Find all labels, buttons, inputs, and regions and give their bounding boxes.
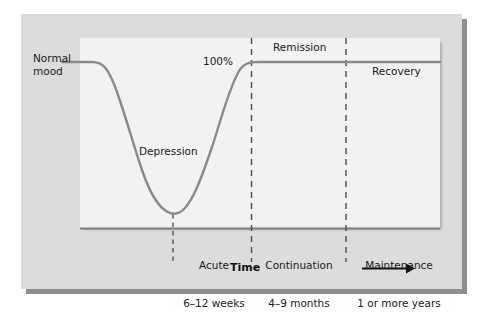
depression-label: Depression	[139, 145, 198, 158]
depression-course-figure: Normal mood 100% Remission Recovery Depr…	[0, 0, 487, 315]
x-axis-title: Time	[205, 261, 285, 274]
phase-label-maintenance: Maintenance 1 or more years	[346, 233, 452, 315]
phase-label-continuation: Continuation 4–9 months	[252, 233, 346, 315]
remission-label: Remission	[273, 41, 326, 54]
phase-duration-continuation: 4–9 months	[252, 297, 346, 310]
phase-label-acute: Acute 6–12 weeks	[176, 233, 252, 315]
phase-duration-acute: 6–12 weeks	[176, 297, 252, 310]
phase-name-maintenance: Maintenance	[346, 259, 452, 272]
normal-mood-label: Normal mood	[33, 52, 71, 77]
percent-100-label: 100%	[203, 55, 233, 68]
phase-duration-maintenance: 1 or more years	[346, 297, 452, 310]
recovery-label: Recovery	[372, 65, 421, 78]
